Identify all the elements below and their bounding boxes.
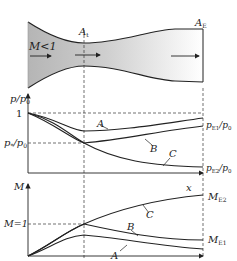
nozzle-flow-diagram: M<1 At AE p/p0 1 p*/p0 A B C pE1/p0 pE2/… — [0, 0, 237, 261]
tick-pstar: p*/p0 — [4, 137, 27, 149]
tick-one: 1 — [16, 108, 22, 119]
tick-m1: M=1 — [3, 218, 28, 229]
exit-mach-label-2: ME2 — [207, 191, 227, 203]
exit-pressure-label-1: pE1/p0 — [206, 120, 232, 131]
exit-area-label: AE — [194, 17, 207, 29]
exit-pressure-label-2: pE2/p0 — [206, 163, 232, 174]
mach-curve-label-b: B — [126, 221, 134, 232]
mach-plot — [28, 184, 203, 256]
pressure-curve-label-c: C — [169, 148, 177, 159]
inlet-mach-label: M<1 — [28, 40, 56, 53]
pressure-curve-a — [28, 113, 203, 131]
pressure-curve-label-b: B — [149, 143, 157, 154]
mach-curve-label-c: C — [146, 209, 154, 220]
pressure-curve-b — [28, 113, 203, 143]
mach-curve-label-a: A — [110, 250, 118, 261]
pressure-y-axis-label: p/p0 — [10, 93, 30, 105]
mach-x-axis-label: x — [186, 182, 192, 193]
exit-mach-label-1: ME1 — [207, 234, 226, 246]
pressure-curve-label-a: A — [96, 118, 104, 129]
mach-y-axis-label: M — [13, 181, 25, 192]
pressure-plot — [28, 94, 203, 173]
nozzle-shape — [28, 22, 203, 88]
